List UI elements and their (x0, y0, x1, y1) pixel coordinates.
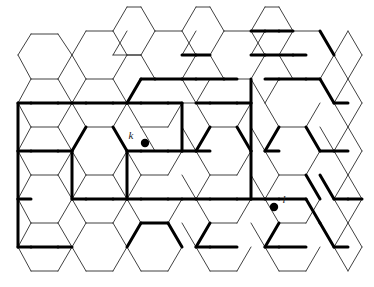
hexagonal-lattice-svg: kl (0, 0, 374, 287)
marked-vertex-dot-l (270, 203, 278, 211)
marked-vertex-dot-k (141, 139, 149, 147)
honeycomb-lattice-figure: kl (0, 0, 374, 287)
figure-background (0, 0, 374, 287)
vertex-label-l: l (282, 193, 285, 205)
